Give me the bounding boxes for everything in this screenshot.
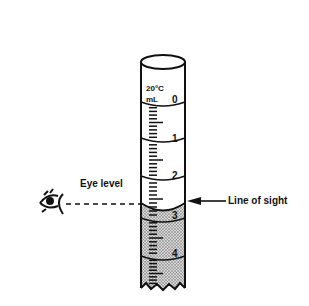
scale-number-0: 0 xyxy=(172,94,178,105)
liquid-column xyxy=(141,205,185,290)
eye-level-label: Eye level xyxy=(80,178,123,189)
scale-number-1: 1 xyxy=(172,133,178,144)
arrow-left-icon xyxy=(187,197,226,205)
eye-icon xyxy=(40,189,63,214)
scale-number-3: 3 xyxy=(172,210,178,221)
temperature-label: 20°C xyxy=(146,84,164,93)
graduated-cylinder-diagram: 20°C mL 0 1 2 3 4 xyxy=(0,0,309,306)
unit-label: mL xyxy=(146,95,158,104)
scale-number-4: 4 xyxy=(172,248,178,259)
line-of-sight-label: Line of sight xyxy=(228,195,287,206)
scale-number-2: 2 xyxy=(172,170,178,181)
